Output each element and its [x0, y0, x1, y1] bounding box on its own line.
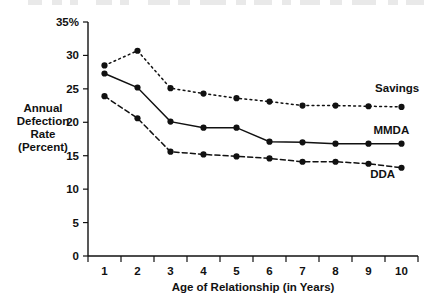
series-label-dda: DDA — [370, 168, 395, 180]
y-tick-label: 0 — [73, 250, 79, 262]
y-tick-label: 30 — [66, 49, 79, 61]
data-point-dda-9 — [365, 161, 371, 167]
data-point-mmda-5 — [233, 125, 239, 131]
data-point-mmda-6 — [266, 139, 272, 145]
data-point-savings-8 — [332, 102, 338, 108]
x-tick-label: 10 — [395, 265, 408, 277]
data-point-dda-6 — [266, 155, 272, 161]
data-point-dda-8 — [332, 159, 338, 165]
data-point-savings-1 — [101, 62, 107, 68]
data-point-mmda-3 — [167, 119, 173, 125]
data-point-savings-9 — [365, 103, 371, 109]
data-point-dda-10 — [398, 165, 404, 171]
data-point-mmda-4 — [200, 125, 206, 131]
data-point-savings-4 — [200, 90, 206, 96]
y-axis-title-line: Defection — [17, 115, 69, 127]
series-layer — [101, 48, 404, 171]
x-tick-label: 7 — [299, 265, 305, 277]
x-tick-label: 4 — [200, 265, 207, 277]
data-point-dda-7 — [299, 159, 305, 165]
y-tick-label: 35% — [56, 16, 79, 28]
axis-captions: Age of Relationship (in Years)AnnualDefe… — [17, 102, 335, 293]
data-point-dda-2 — [134, 115, 140, 121]
y-tick-label: 10 — [66, 183, 79, 195]
x-tick-label: 3 — [167, 265, 173, 277]
x-axis: 12345678910 — [88, 256, 418, 277]
chart-canvas: 05101520253035% 12345678910 SavingsMMDAD… — [0, 0, 436, 308]
data-point-dda-4 — [200, 151, 206, 157]
x-tick-label: 1 — [101, 265, 108, 277]
data-point-mmda-10 — [398, 141, 404, 147]
series-label-savings: Savings — [375, 82, 419, 94]
y-axis-title-line: Rate — [31, 128, 56, 140]
data-point-savings-6 — [266, 98, 272, 104]
data-point-mmda-1 — [101, 70, 107, 76]
data-point-mmda-8 — [332, 141, 338, 147]
series-line-mmda — [105, 73, 402, 143]
x-tick-label: 8 — [332, 265, 339, 277]
y-tick-label: 5 — [73, 217, 80, 229]
y-tick-label: 15 — [66, 150, 79, 162]
y-axis-title-line: (Percent) — [18, 141, 68, 153]
y-axis-title-line: Annual — [24, 102, 63, 114]
defection-rate-line-chart: 05101520253035% 12345678910 SavingsMMDAD… — [0, 0, 436, 308]
x-tick-label: 5 — [233, 265, 240, 277]
y-axis: 05101520253035% — [56, 16, 88, 262]
data-point-mmda-2 — [134, 84, 140, 90]
data-point-savings-5 — [233, 95, 239, 101]
x-tick-label: 6 — [266, 265, 272, 277]
data-point-savings-3 — [167, 85, 173, 91]
data-point-mmda-9 — [365, 141, 371, 147]
data-point-savings-7 — [299, 102, 305, 108]
x-tick-label: 9 — [365, 265, 371, 277]
x-axis-title: Age of Relationship (in Years) — [172, 281, 335, 293]
series-label-mmda: MMDA — [373, 124, 409, 136]
y-tick-label: 25 — [66, 83, 79, 95]
data-point-dda-5 — [233, 153, 239, 159]
x-tick-label: 2 — [134, 265, 140, 277]
data-point-dda-1 — [101, 93, 107, 99]
series-labels: SavingsMMDADDA — [370, 82, 419, 181]
series-line-dda — [105, 96, 402, 168]
data-point-savings-10 — [398, 104, 404, 110]
data-point-dda-3 — [167, 149, 173, 155]
data-point-savings-2 — [134, 48, 140, 54]
data-point-mmda-7 — [299, 139, 305, 145]
